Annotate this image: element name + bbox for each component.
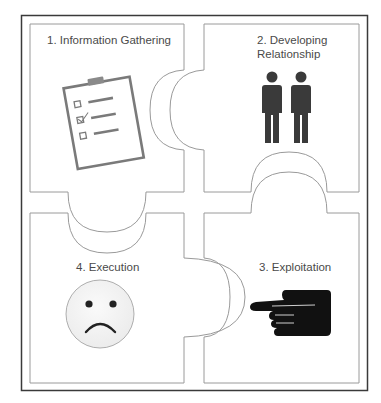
sad-face-icon — [66, 280, 134, 348]
puzzle-diagram — [0, 0, 381, 403]
puzzle-piece-bottom-right — [204, 172, 359, 383]
piece-3-label: 3. Exploitation — [259, 260, 331, 274]
piece-2-label-line2: Relationship — [257, 47, 320, 61]
clipboard-checklist-icon — [63, 72, 144, 169]
piece-2-label-line1: 2. Developing — [257, 33, 327, 47]
puzzle-piece-bottom-left — [30, 213, 245, 383]
piece-1-label: 1. Information Gathering — [47, 33, 171, 47]
puzzle-piece-top-left — [30, 24, 184, 232]
pointing-hand-icon — [250, 290, 331, 336]
piece-4-label: 4. Execution — [76, 260, 139, 274]
two-people-icon — [262, 72, 311, 144]
